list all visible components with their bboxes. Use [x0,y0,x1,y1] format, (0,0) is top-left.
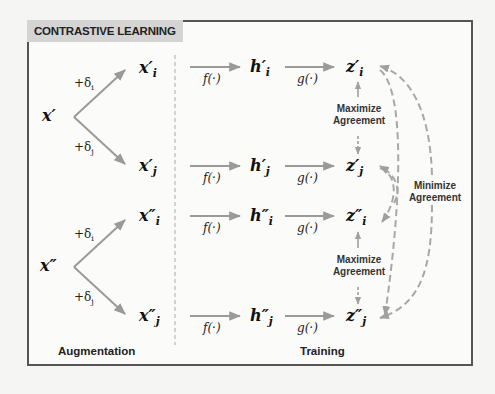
delta-j-label: +δj [74,140,94,156]
input-x-prime: x′ [42,106,56,125]
minimize-agreement-label: MinimizeAgreement [405,180,465,204]
training-section-label: Training [300,345,345,357]
h-1: h′j [250,156,270,178]
z-1: z′j [346,156,363,178]
augmented-x-3: x″j [139,306,160,328]
f-label: f(·) [203,221,221,235]
f-label: f(·) [203,171,221,185]
g-label: g(·) [297,221,318,235]
maximize-agreement-label: MaximizeAgreement [330,103,388,127]
delta-i-label: +δi [74,227,94,243]
augmented-x-1: x′j [139,156,157,178]
f-arrows [190,67,240,316]
h-0: h′i [250,57,270,79]
f-label: f(·) [203,321,221,335]
contrastive-learning-diagram: CONTRASTIVE LEARNING [0,0,495,394]
maximize-agreement-label: MaximizeAgreement [330,254,388,278]
g-label: g(·) [297,72,318,86]
f-label: f(·) [203,72,221,86]
augmented-x-2: x″i [139,206,160,228]
augmentation-section-label: Augmentation [58,345,135,357]
delta-i-label: +δi [74,76,94,92]
g-label: g(·) [297,171,318,185]
g-label: g(·) [297,321,318,335]
input-x-double-prime: x″ [40,256,57,275]
augmentation-arrows [74,70,125,314]
augmented-x-0: x′i [139,58,157,80]
z-2: z″i [346,206,366,228]
z-3: z″j [346,306,366,328]
z-0: z′i [346,57,364,79]
h-3: h″j [250,306,273,328]
h-2: h″i [250,206,273,228]
delta-j-label: +δj [74,290,94,306]
g-arrows [285,67,334,316]
